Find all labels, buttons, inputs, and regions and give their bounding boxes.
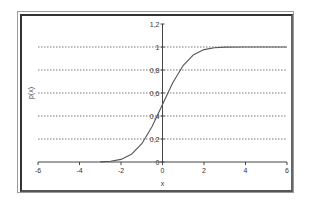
y-tick-label: 0 [156,159,160,166]
chart-plot: -6-4-2024600,20,40,60,811,2xp(x) [0,0,312,207]
series-line [100,47,287,162]
x-tick-label: 4 [244,167,248,174]
y-axis-label: p(x) [27,87,35,99]
x-tick-label: -4 [76,167,82,174]
y-tick-label: 0,8 [150,67,160,74]
x-axis-label: x [161,180,165,187]
y-tick-label: 1,2 [150,21,160,28]
y-tick-label: 1 [156,44,160,51]
y-tick-label: 0,2 [150,136,160,143]
x-tick-label: 2 [202,167,206,174]
x-tick-label: 0 [161,167,165,174]
x-tick-label: -6 [35,167,41,174]
x-tick-label: 6 [285,167,289,174]
y-tick-label: 0,6 [150,90,160,97]
x-tick-label: -2 [118,167,124,174]
